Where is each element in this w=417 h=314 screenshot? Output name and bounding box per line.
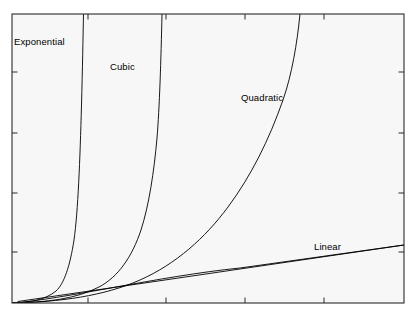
curve-label-exponential: Exponential <box>14 36 65 47</box>
chart-figure: Exponential Cubic Quadratic Linear <box>0 0 417 314</box>
curve-label-linear: Linear <box>314 241 341 252</box>
curve-label-cubic: Cubic <box>110 61 135 72</box>
growth-rate-plot <box>0 0 417 314</box>
plot-background <box>12 14 404 303</box>
curve-label-quadratic: Quadratic <box>241 92 283 103</box>
